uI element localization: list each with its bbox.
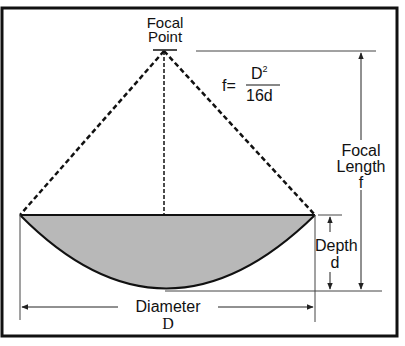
focal-length-symbol: f bbox=[336, 175, 386, 191]
formula-numerator-base: D bbox=[251, 65, 263, 82]
diameter-symbol: D bbox=[158, 316, 178, 332]
formula-lhs: f= bbox=[222, 78, 236, 94]
formula-numerator: D2 bbox=[251, 65, 268, 82]
left-ray bbox=[20, 51, 164, 215]
formula-numerator-exponent: 2 bbox=[263, 64, 268, 74]
right-ray bbox=[164, 51, 315, 215]
focal-point-label-line2: Point bbox=[146, 30, 184, 44]
focal-length-label-line2: Length bbox=[336, 159, 386, 175]
formula-denominator: 16d bbox=[246, 88, 273, 104]
depth-label-text: Depth bbox=[315, 237, 355, 254]
focal-point-label: Focal Point bbox=[146, 16, 184, 44]
focal-length-label-line1: Focal bbox=[336, 143, 386, 159]
depth-symbol: d bbox=[315, 254, 355, 271]
diameter-label: Diameter bbox=[133, 299, 203, 315]
focal-length-label: Focal Length f bbox=[336, 143, 386, 191]
depth-label: Depth d bbox=[315, 237, 355, 271]
